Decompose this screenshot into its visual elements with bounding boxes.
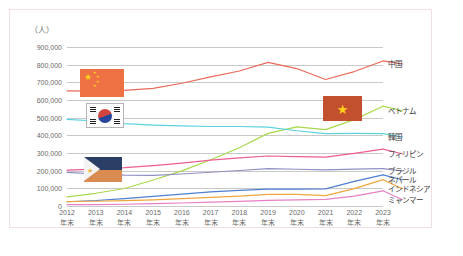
y-axis-tick-label: 500,000 xyxy=(37,114,62,121)
series-label-indonesia: インドネシア xyxy=(388,185,430,194)
x-axis-tick-label: 2016年末 xyxy=(174,208,190,228)
y-axis-tick-label: 200,000 xyxy=(37,167,62,174)
south-korea-flag xyxy=(86,103,124,128)
x-axis-tick-label: 2012年末 xyxy=(59,208,75,228)
philippines-flag: ★ xyxy=(84,157,122,182)
x-axis-tick-label: 2018年末 xyxy=(232,208,248,228)
x-axis-tick-label: 2021年末 xyxy=(318,208,334,228)
y-axis-tick-label: 100,000 xyxy=(37,185,62,192)
series-label-myanmar: ミャンマー xyxy=(388,196,423,205)
x-axis-tick-label: 2019年末 xyxy=(260,208,276,228)
y-axis-unit-label: （人） xyxy=(30,24,54,35)
series-label-brazil: ブラジル xyxy=(388,167,416,176)
y-axis-tick-label: 300,000 xyxy=(37,150,62,157)
gridline xyxy=(67,206,383,207)
x-axis-tick-label: 2020年末 xyxy=(289,208,305,228)
x-axis-tick-label: 2022年末 xyxy=(346,208,362,228)
y-axis-tick-label: 700,000 xyxy=(37,79,62,86)
series-label-philippines: フィリピン xyxy=(388,150,423,159)
y-axis-tick-label: 600,000 xyxy=(37,97,62,104)
x-axis: 2012年末2013年末2014年末2015年末2016年末2017年末2018… xyxy=(67,208,383,242)
china-flag: ★ ★ ★ ★ ★ xyxy=(80,69,124,97)
chart-card: （人） 900,000800,000700,000600,000500,0004… xyxy=(9,9,432,228)
x-axis-tick-label: 2013年末 xyxy=(88,208,104,228)
x-axis-tick-label: 2017年末 xyxy=(203,208,219,228)
x-axis-tick-label: 2015年末 xyxy=(145,208,161,228)
y-axis-tick-label: 900,000 xyxy=(37,44,62,51)
x-axis-tick-label: 2014年末 xyxy=(117,208,133,228)
series-label-korea: 韓国 xyxy=(388,133,402,142)
series-label-vietnam: ベトナム xyxy=(388,107,416,116)
y-axis-tick-label: 800,000 xyxy=(37,61,62,68)
y-axis-tick-label: 400,000 xyxy=(37,132,62,139)
series-label-china: 中国 xyxy=(388,60,402,69)
vietnam-flag: ★ xyxy=(323,96,362,121)
x-axis-tick-label: 2023年末 xyxy=(375,208,391,228)
series-label-nepal: ネパール xyxy=(388,176,416,185)
